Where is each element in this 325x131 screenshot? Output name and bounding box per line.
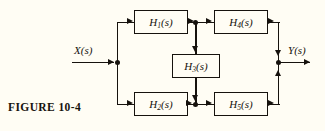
block-h2-label: H2(s) [149, 99, 172, 110]
arrowhead-output-sum-from-top [275, 50, 281, 56]
block-h2[interactable]: H2(s) [134, 92, 188, 116]
arrowhead-output-sum-from-bottom [275, 70, 281, 76]
arrowhead-h1-input [127, 18, 133, 24]
arrowhead-h4-output [268, 18, 274, 24]
output-signal-label: Y(s) [288, 44, 306, 56]
arrowhead-output [304, 59, 310, 65]
block-h5[interactable]: H5(s) [214, 92, 268, 116]
input-signal-base: X [74, 44, 81, 56]
block-h3-label: H3(s) [184, 61, 207, 72]
arrowhead-h2-input [127, 100, 133, 106]
arrowhead-h3-input [192, 46, 198, 52]
arrowhead-bottomsum-horizontal [186, 100, 192, 106]
block-h1-label: H1(s) [149, 17, 172, 28]
input-signal-label: X(s) [74, 44, 92, 56]
wire-rightrail-top [278, 22, 279, 64]
input-signal-arg: (s) [81, 44, 93, 56]
wire-input-split-vertical [117, 22, 118, 104]
block-h4[interactable]: H4(s) [214, 10, 268, 34]
figure-block-diagram: FIGURE 10-4 X(s) H1(s) H4(s) H3(s) H2(s)… [0, 0, 325, 131]
wire-rightrail-bottom [278, 62, 279, 104]
arrowhead-bottomsum-vertical [192, 95, 198, 101]
arrowhead-h4-input [206, 18, 212, 24]
block-h3[interactable]: H3(s) [172, 54, 220, 78]
arrowhead-h5-input [206, 100, 212, 106]
block-h1[interactable]: H1(s) [134, 10, 188, 34]
output-signal-arg: (s) [294, 44, 306, 56]
arrowhead-h5-output [268, 100, 274, 106]
figure-caption: FIGURE 10-4 [8, 101, 81, 113]
block-h4-label: H4(s) [229, 17, 252, 28]
arrowhead-input [108, 59, 114, 65]
block-h5-label: H5(s) [229, 99, 252, 110]
